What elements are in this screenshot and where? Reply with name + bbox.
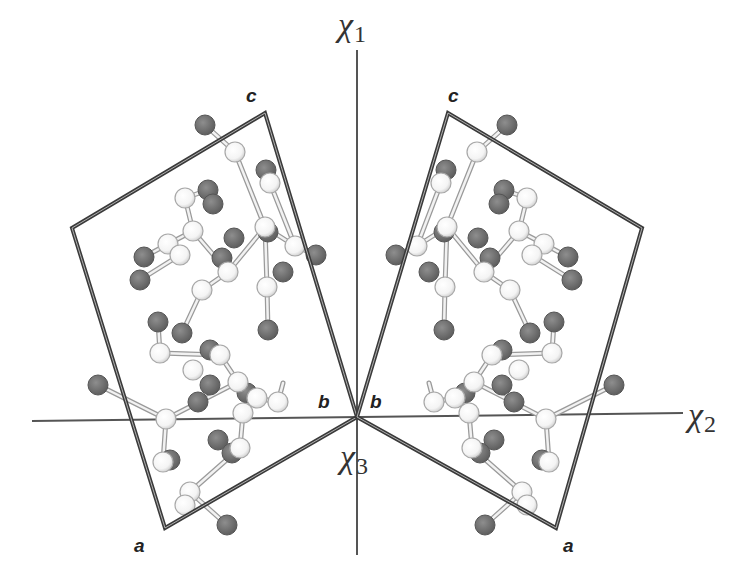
atom-dark	[544, 312, 564, 332]
atom-light	[183, 221, 203, 241]
atom-dark	[468, 228, 488, 248]
left-cell-label-b: b	[318, 392, 330, 411]
atom-dark	[434, 320, 454, 340]
atom-light	[268, 392, 288, 412]
atom-light	[509, 221, 529, 241]
atom-dark	[419, 262, 439, 282]
atom-dark	[489, 194, 509, 214]
right-molecule-atoms	[386, 115, 624, 535]
atom-dark	[475, 515, 495, 535]
atom-light	[247, 388, 267, 408]
atom-light	[482, 345, 502, 365]
atom-light	[539, 452, 559, 472]
right-cell-label-a: a	[563, 536, 574, 555]
atom-light	[210, 345, 230, 365]
atom-light	[464, 372, 484, 392]
atom-light	[445, 388, 465, 408]
atom-light	[230, 438, 250, 458]
atom-light	[153, 452, 173, 472]
atom-dark	[148, 312, 168, 332]
left-molecule-atoms	[88, 115, 326, 535]
atom-dark	[203, 194, 223, 214]
atom-dark	[130, 270, 150, 290]
atom-light	[228, 372, 248, 392]
crystal-structure-diagram: χ1 χ2 χ3 c b a c b a	[0, 0, 752, 573]
atom-dark	[258, 320, 278, 340]
atom-dark	[200, 375, 220, 395]
atom-dark	[558, 247, 578, 267]
atom-light	[183, 360, 203, 380]
atom-light	[435, 277, 455, 297]
diagram-canvas	[0, 0, 752, 573]
atom-light	[255, 217, 275, 237]
atom-light	[218, 262, 238, 282]
axis-label-chi2: χ2	[688, 398, 716, 436]
atom-light	[462, 438, 482, 458]
left-cell-label-a: a	[134, 536, 145, 555]
atom-dark	[492, 375, 512, 395]
left-cell-label-c: c	[246, 86, 257, 105]
atom-light	[542, 343, 562, 363]
atom-dark	[504, 392, 524, 412]
atom-dark	[562, 270, 582, 290]
atom-light	[437, 217, 457, 237]
axis-symbol: χ	[340, 438, 355, 475]
right-cell-label-b: b	[370, 392, 382, 411]
atom-light	[192, 280, 212, 300]
atom-dark	[497, 115, 517, 135]
atom-light	[536, 409, 556, 429]
atom-dark	[88, 375, 108, 395]
atom-dark	[224, 228, 244, 248]
atom-light	[509, 360, 529, 380]
atom-light	[175, 188, 195, 208]
atom-light	[500, 280, 520, 300]
atom-light	[459, 403, 479, 423]
left-unit-cell-inner	[72, 113, 357, 528]
axis-label-chi3: χ3	[340, 440, 368, 478]
atom-light	[233, 403, 253, 423]
atom-dark	[188, 392, 208, 412]
atom-light	[517, 188, 537, 208]
left-unit-cell	[72, 113, 357, 528]
axis-label-chi1: χ1	[338, 8, 366, 46]
axis-subscript: 1	[354, 21, 366, 47]
right-cell-label-c: c	[448, 86, 459, 105]
atom-dark	[604, 375, 624, 395]
atom-dark	[273, 262, 293, 282]
atom-light	[150, 343, 170, 363]
axis-subscript: 3	[356, 453, 368, 479]
atom-light	[156, 409, 176, 429]
atom-dark	[217, 515, 237, 535]
atom-dark	[195, 115, 215, 135]
atom-dark	[172, 323, 192, 343]
atom-dark	[134, 247, 154, 267]
atom-light	[225, 142, 245, 162]
axis-symbol: χ	[338, 6, 353, 43]
atom-light	[474, 262, 494, 282]
atom-light	[522, 245, 542, 265]
atom-light	[260, 173, 280, 193]
axis-symbol: χ	[688, 396, 703, 433]
atom-light	[467, 142, 487, 162]
coordinate-axes	[32, 50, 683, 555]
bond-highlight	[98, 385, 166, 419]
axis-subscript: 2	[704, 411, 716, 437]
atom-light	[170, 245, 190, 265]
atom-light	[431, 173, 451, 193]
atom-dark	[520, 323, 540, 343]
right-unit-cell	[357, 113, 642, 528]
atom-light	[424, 392, 444, 412]
right-unit-cell-inner	[357, 113, 642, 528]
atom-light	[257, 277, 277, 297]
